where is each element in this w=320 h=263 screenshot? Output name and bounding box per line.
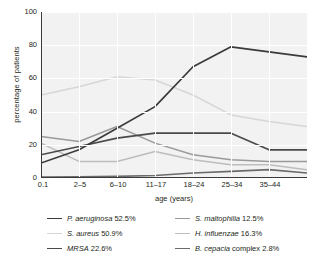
- legend-label-italic-0: P. aeruginosa: [67, 214, 112, 223]
- legend-swatch-s-maltophilia: [175, 218, 190, 219]
- legend-label-italic-2: MRSA: [67, 244, 89, 253]
- legend-label-rest-0: 52.5%: [112, 214, 135, 223]
- legend-label-b-cepacia: B. cepacia complex 2.8%: [195, 244, 279, 253]
- legend-label-rest-1: 50.9%: [99, 229, 122, 238]
- y-axis-title: percentage of patients: [12, 25, 21, 145]
- y-tick-100: 100: [16, 8, 37, 16]
- legend-label-s-maltophilia: S. maltophilia 12.5%: [195, 214, 263, 223]
- legend-item-h-influenzae[interactable]: H. influenzae 16.3%: [175, 226, 303, 241]
- legend-item-s-maltophilia[interactable]: S. maltophilia 12.5%: [175, 211, 303, 226]
- legend-label-italic-1: S. aureus: [67, 229, 99, 238]
- legend-label-p-aeruginosa: P. aeruginosa 52.5%: [67, 214, 136, 223]
- legend-label-rest-5: complex 2.8%: [230, 244, 279, 253]
- legend-label-italic-3: S. maltophilia: [195, 214, 240, 223]
- legend-item-s-aureus[interactable]: S. aureus 50.9%: [47, 226, 175, 241]
- legend-label-s-aureus: S. aureus 50.9%: [67, 229, 122, 238]
- x-tick-3: 11–17: [136, 181, 176, 189]
- x-tick-4: 18–24: [174, 181, 214, 189]
- x-tick-5: 25–34: [212, 181, 252, 189]
- x-tick-1: 2–5: [60, 181, 100, 189]
- legend-label-rest-3: 12.5%: [240, 214, 263, 223]
- legend-column-left: P. aeruginosa 52.5% S. aureus 50.9% MRSA…: [47, 211, 175, 256]
- legend-swatch-mrsa: [47, 248, 62, 249]
- legend-label-rest-4: 16.3%: [239, 229, 262, 238]
- legend-label-italic-4: H. influenzae: [195, 229, 239, 238]
- legend-label-italic-5: B. cepacia: [195, 244, 230, 253]
- legend-label-h-influenzae: H. influenzae 16.3%: [195, 229, 262, 238]
- legend-swatch-p-aeruginosa: [47, 218, 62, 219]
- legend-column-right: S. maltophilia 12.5% H. influenzae 16.3%…: [175, 211, 303, 256]
- legend-swatch-s-aureus: [47, 233, 62, 234]
- legend-item-p-aeruginosa[interactable]: P. aeruginosa 52.5%: [47, 211, 175, 226]
- legend-item-mrsa[interactable]: MRSA 22.6%: [47, 241, 175, 256]
- legend-label-rest-2: 22.6%: [89, 244, 112, 253]
- legend-swatch-b-cepacia: [175, 248, 190, 249]
- legend-item-b-cepacia[interactable]: B. cepacia complex 2.8%: [175, 241, 303, 256]
- legend-label-mrsa: MRSA 22.6%: [67, 244, 112, 253]
- x-axis-title: age (years): [41, 194, 307, 203]
- chart-figure: 100 80 60 40 20 0 0.1 2–5 6–10 11–17 18–…: [0, 0, 320, 263]
- chart-legend: P. aeruginosa 52.5% S. aureus 50.9% MRSA…: [47, 211, 309, 257]
- x-tick-2: 6–10: [98, 181, 138, 189]
- x-tick-6: 35–44: [250, 181, 290, 189]
- legend-swatch-h-influenzae: [175, 233, 190, 234]
- x-tick-0: 0.1: [23, 181, 63, 189]
